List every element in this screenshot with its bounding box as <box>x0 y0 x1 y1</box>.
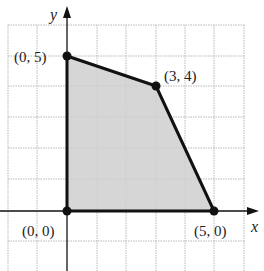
vertex-3-4 <box>152 82 161 91</box>
vertex-label-3-4: (3, 4) <box>164 68 197 85</box>
vertex-0-5 <box>63 52 72 61</box>
x-axis-arrow-icon <box>247 207 259 215</box>
x-axis-label: x <box>250 218 258 235</box>
vertex-5-0 <box>210 207 219 216</box>
vertex-label-5-0: (5, 0) <box>194 223 227 240</box>
y-axis-arrow-icon <box>63 6 71 18</box>
vertex-label-origin: (0, 0) <box>22 223 55 240</box>
graph: y x (0, 5) (3, 4) (0, 0) (5, 0) <box>0 0 264 271</box>
y-axis-label: y <box>48 6 58 24</box>
vertex-origin <box>63 207 72 216</box>
vertex-label-0-5: (0, 5) <box>14 49 47 66</box>
